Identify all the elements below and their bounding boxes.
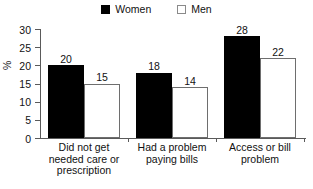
category-label-1: Had a problem paying bills — [128, 142, 216, 165]
bar-value-women-2: 28 — [236, 25, 248, 36]
x-axis-category-labels: Did not get needed care or prescription … — [40, 142, 306, 189]
legend-item-men: Men — [177, 4, 211, 15]
legend-label-women: Women — [115, 4, 151, 15]
y-axis-line — [40, 29, 41, 138]
bar-value-men-0: 15 — [96, 72, 108, 83]
bar-men-1: 14 — [172, 87, 208, 138]
bar-value-women-0: 20 — [60, 54, 72, 65]
plot-area: 30 25 20 15 10 5 0 20 15 — [40, 29, 306, 138]
y-axis-label: % — [2, 61, 13, 70]
category-label-0-line-0: Did not get — [40, 142, 128, 154]
category-label-1-line-0: Had a problem — [128, 142, 216, 154]
bar-value-men-1: 14 — [184, 76, 196, 87]
filled-square-icon — [101, 5, 110, 14]
hollow-square-icon — [177, 5, 186, 14]
category-label-2-line-0: Access or bill — [216, 142, 304, 154]
category-label-0: Did not get needed care or prescription — [40, 142, 128, 177]
y-tick-15: 15 — [35, 84, 40, 85]
y-tick-25: 25 — [35, 47, 40, 48]
y-tick-label-30: 30 — [19, 24, 31, 35]
chart-legend: Women Men — [0, 4, 313, 15]
y-tick-20: 20 — [35, 65, 40, 66]
y-tick-10: 10 — [35, 102, 40, 103]
y-tick-0: 0 — [35, 138, 40, 139]
category-label-0-line-2: prescription — [40, 165, 128, 177]
category-label-2: Access or bill problem — [216, 142, 304, 165]
y-tick-label-25: 25 — [19, 42, 31, 53]
y-tick-label-0: 0 — [25, 133, 31, 144]
x-axis-line — [35, 138, 306, 139]
y-tick-5: 5 — [35, 120, 40, 121]
bar-value-men-2: 22 — [272, 47, 284, 58]
y-tick-label-10: 10 — [19, 97, 31, 108]
bar-women-0: 20 — [48, 65, 84, 138]
category-label-2-line-1: problem — [216, 154, 304, 166]
bar-women-2: 28 — [224, 36, 260, 138]
y-tick-label-15: 15 — [19, 79, 31, 90]
bar-men-0: 15 — [84, 84, 120, 139]
bar-value-women-1: 18 — [148, 61, 160, 72]
bar-women-1: 18 — [136, 73, 172, 138]
legend-label-men: Men — [191, 4, 211, 15]
legend-item-women: Women — [101, 4, 151, 15]
y-tick-label-5: 5 — [25, 115, 31, 126]
bar-men-2: 22 — [260, 58, 296, 138]
bar-chart: Women Men % 30 25 20 15 10 5 0 — [0, 0, 313, 189]
y-tick-label-20: 20 — [19, 61, 31, 72]
y-tick-30: 30 — [35, 29, 40, 30]
category-label-1-line-1: paying bills — [128, 154, 216, 166]
